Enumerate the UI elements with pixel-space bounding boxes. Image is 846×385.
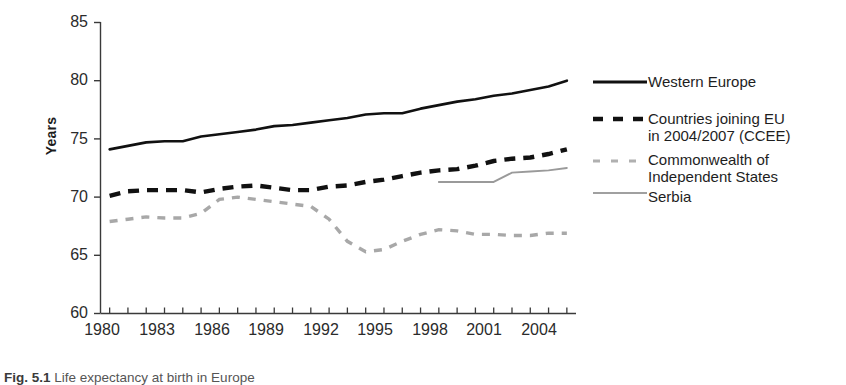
legend-label-ccee: Countries joining EU in 2004/2007 (CCEE) bbox=[648, 109, 791, 145]
x-tick-1983: 1983 bbox=[139, 322, 175, 338]
x-tick-1986: 1986 bbox=[194, 322, 230, 338]
x-tick-1989: 1989 bbox=[248, 322, 284, 338]
x-tick-1998: 1998 bbox=[412, 322, 448, 338]
x-tick-1995: 1995 bbox=[357, 322, 393, 338]
legend-label-serbia: Serbia bbox=[648, 187, 691, 205]
legend-swatch-solid-thick-black-icon bbox=[592, 72, 648, 92]
legend-label-cis-line2: Independent States bbox=[648, 168, 778, 185]
legend-label-ccee-line1: Countries joining EU bbox=[648, 110, 785, 127]
figure-caption: Fig. 5.1 Life expectancy at birth in Eur… bbox=[4, 370, 255, 385]
figure-caption-text: Life expectancy at birth in Europe bbox=[54, 370, 254, 385]
legend-swatch-dashed-thick-black-icon bbox=[592, 109, 648, 129]
figure-caption-label: Fig. 5.1 bbox=[4, 370, 51, 385]
legend-item-western-europe: Western Europe bbox=[592, 72, 842, 92]
figure-life-expectancy-europe: Years 85 80 75 70 65 60 bbox=[0, 0, 846, 385]
legend-item-serbia: Serbia bbox=[592, 187, 842, 207]
x-tick-1992: 1992 bbox=[303, 322, 339, 338]
legend-label-western-europe: Western Europe bbox=[648, 72, 756, 90]
chart-legend: Western Europe Countries joining EU in 2… bbox=[592, 72, 842, 209]
legend-swatch-dashed-thin-gray-icon bbox=[592, 150, 648, 170]
legend-label-cis-line1: Commonwealth of bbox=[648, 151, 769, 168]
x-tick-2004: 2004 bbox=[521, 322, 557, 338]
legend-item-cis: Commonwealth of Independent States bbox=[592, 150, 842, 186]
x-tick-1980: 1980 bbox=[84, 322, 120, 338]
legend-item-ccee: Countries joining EU in 2004/2007 (CCEE) bbox=[592, 109, 842, 145]
legend-label-cis: Commonwealth of Independent States bbox=[648, 150, 778, 186]
x-tick-2001: 2001 bbox=[466, 322, 502, 338]
legend-label-ccee-line2: in 2004/2007 (CCEE) bbox=[648, 127, 791, 144]
legend-swatch-solid-thin-gray-icon bbox=[592, 187, 648, 207]
